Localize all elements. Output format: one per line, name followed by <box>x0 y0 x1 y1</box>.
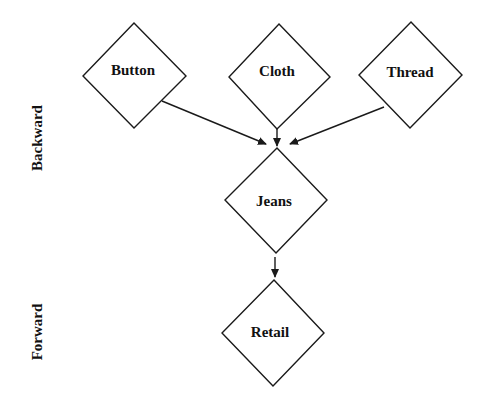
edge-thread-to-jeans <box>290 107 384 144</box>
node-label-jeans: Jeans <box>256 193 292 209</box>
node-label-retail: Retail <box>251 324 289 340</box>
node-label-button: Button <box>111 62 156 78</box>
node-button: Button <box>83 23 186 128</box>
edge-button-to-jeans <box>162 101 266 144</box>
node-thread: Thread <box>359 22 462 128</box>
node-label-thread: Thread <box>386 64 434 80</box>
side-label-backward: Backward <box>29 104 45 170</box>
side-label-forward: Forward <box>29 303 45 360</box>
node-cloth: Cloth <box>229 24 330 129</box>
supply-chain-diagram: Backward Forward Button Cloth Thread Jea… <box>0 0 486 407</box>
node-label-cloth: Cloth <box>259 63 295 79</box>
node-retail: Retail <box>222 280 324 386</box>
node-jeans: Jeans <box>225 148 327 253</box>
